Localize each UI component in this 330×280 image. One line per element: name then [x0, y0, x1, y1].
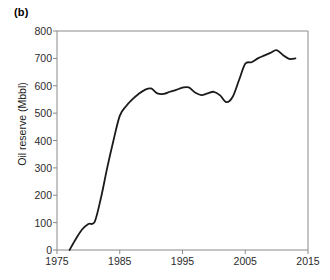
- x-axis-ticks: [57, 250, 308, 254]
- plot-area: [0, 0, 330, 280]
- y-axis-ticks: [53, 31, 57, 250]
- figure-panel-b: (b) Oil reserve (Mbbl) 01002003004005006…: [0, 0, 330, 280]
- data-series-oil-reserve: [70, 50, 296, 250]
- axis-lines: [57, 31, 308, 250]
